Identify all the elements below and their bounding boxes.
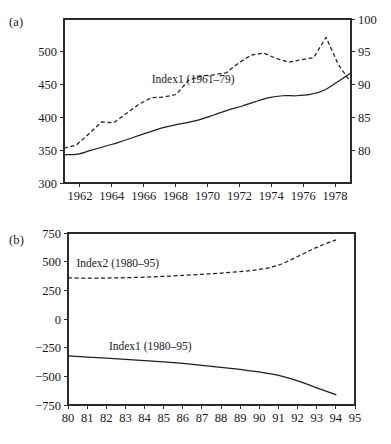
panel-b-xticklabel: 87 [196,411,209,425]
panel-b-yticklabel: −750 [35,399,61,413]
panel-b-xticklabel: 83 [119,411,132,425]
panel-b-yticklabel: 0 [55,313,61,327]
panel-b-yticklabel: −500 [35,370,61,384]
panel-a-xticklabel: 1974 [259,189,285,203]
panel-a-xticklabel: 1970 [195,189,220,203]
panel-b-xticklabel: 84 [138,411,151,425]
panel-a-yticklabel: 450 [38,78,57,92]
panel-b-xticklabel: 93 [310,411,323,425]
panel-a-xticklabel: 1978 [323,189,348,203]
figure-container: (a) 300350400450500808590951001962196419… [0,0,391,444]
panel-a-y2ticklabel: 90 [358,78,371,92]
panel-a-yticklabel: 300 [38,177,57,191]
panel-b-series-index1 [68,356,336,395]
panel-a-label: (a) [9,15,23,30]
panel-b-xticklabel: 80 [62,411,75,425]
panel-a-xticklabel: 1972 [227,189,252,203]
panel-b-xticklabel: 89 [234,411,247,425]
panel-b-label-index1: Index1 (1980–95) [109,340,192,353]
panel-a-xticklabel: 1966 [131,189,156,203]
panel-b-label: (b) [9,233,24,248]
panel-a-series-index2 [64,37,351,148]
panel-a-yticklabel: 400 [38,111,57,125]
chart-panel-b: (b) −750−500−250025050075080818283848586… [0,215,391,444]
panel-a-xticklabel: 1968 [163,189,188,203]
panel-a-xticklabel: 1962 [67,189,92,203]
panel-b-xticklabel: 91 [272,411,285,425]
panel-a-xticklabel: 1964 [99,189,125,203]
panel-b-yticklabel: 250 [42,284,61,298]
chart-panel-a: (a) 300350400450500808590951001962196419… [0,0,391,215]
panel-a-axis-frame [64,19,351,183]
panel-a-y2ticklabel: 80 [358,144,371,158]
panel-b-xticklabel: 95 [349,411,362,425]
panel-b-yticklabel: 500 [42,255,61,269]
panel-a-xticklabel: 1976 [291,189,316,203]
panel-b-xticklabel: 92 [291,411,304,425]
panel-a-plot: 3003504004505008085909510019621964196619… [0,0,391,215]
panel-b-xticklabel: 81 [81,411,94,425]
panel-b-xticklabel: 90 [253,411,266,425]
panel-a-y2ticklabel: 100 [358,13,377,27]
panel-b-yticklabel: −250 [35,341,61,355]
panel-b-xticklabel: 88 [215,411,228,425]
panel-a-label-index1: Index1 (1961–79) [152,73,235,86]
panel-b-label-index2: Index2 (1980–95) [76,257,159,270]
panel-b-xticklabel: 94 [330,411,343,425]
panel-a-y2ticklabel: 85 [358,111,371,125]
panel-b-xticklabel: 82 [100,411,113,425]
panel-b-xticklabel: 85 [157,411,170,425]
panel-a-y2ticklabel: 95 [358,45,371,59]
panel-b-xticklabel: 86 [177,411,190,425]
panel-b-plot: −750−500−2500250500750808182838485868788… [0,215,391,444]
panel-a-yticklabel: 500 [38,45,57,59]
panel-b-yticklabel: 750 [42,227,61,241]
panel-a-yticklabel: 350 [38,144,57,158]
